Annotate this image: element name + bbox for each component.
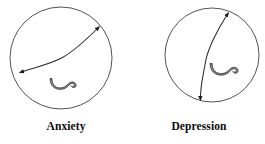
depression-caption: Depression <box>133 119 265 133</box>
anxiety-diagram-svg <box>0 0 132 118</box>
panel-depression: Depression <box>133 0 265 144</box>
anxiety-ribbon-icon <box>50 79 76 90</box>
anxiety-double-arrow <box>20 27 100 73</box>
panel-anxiety: Anxiety <box>0 0 132 144</box>
depression-double-arrow <box>200 13 228 101</box>
depression-circle <box>165 8 259 102</box>
depression-ribbon-icon <box>210 64 238 76</box>
figure-root: Anxiety Depression <box>0 0 265 144</box>
depression-diagram-svg <box>133 0 265 118</box>
anxiety-caption: Anxiety <box>0 119 132 133</box>
